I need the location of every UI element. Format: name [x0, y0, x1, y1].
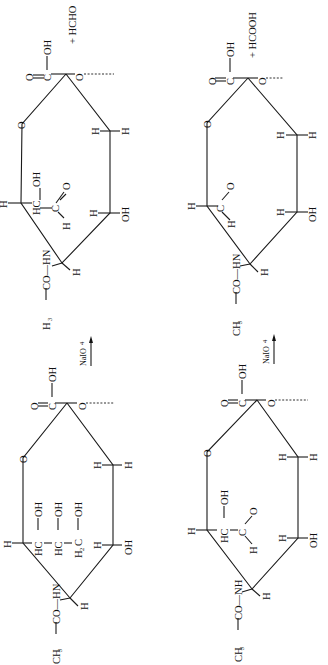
label-amide: CO—HN: [231, 253, 242, 294]
label-hc-1: HC: [33, 541, 44, 556]
label-carboxyl-o: O: [207, 77, 218, 85]
label-ring-h-c4: H: [92, 541, 103, 549]
label-h: H: [2, 540, 13, 548]
label-ring-o: O: [18, 455, 29, 463]
label-oh-3: OH: [73, 501, 84, 517]
label-ring-h-c4: H: [88, 209, 99, 217]
reagent-sub4: 4: [261, 339, 268, 343]
label-carboxyl-c: C: [225, 78, 236, 85]
label-ring-h-c4: H: [275, 208, 286, 216]
label-carboxyl-oh: OH: [225, 41, 236, 57]
label-ring-h-c3a: H: [275, 131, 286, 139]
label-amide-h3: H: [41, 322, 52, 330]
label-c: C: [50, 205, 61, 212]
label-carboxyl-o: O: [24, 73, 35, 81]
label-ring-oh-c4: OH: [123, 539, 134, 555]
label-ring-h-c3a: H: [277, 453, 288, 461]
label-aldehyde-h: H: [61, 222, 72, 230]
label-ring-h-c3a: H: [92, 461, 103, 469]
label-ring-h-c4: H: [277, 534, 288, 542]
label-ring-h-c3b: H: [120, 127, 131, 135]
label-ring-h-c3b: H: [123, 461, 134, 469]
structure-product-hcooh: O C OH O + HCOOH O H C O H H CO—HN CH 3 …: [186, 12, 318, 336]
label-amide: CO—HN: [51, 583, 62, 624]
label-aldehyde-o: O: [61, 182, 72, 190]
label-carboxyl-oh: OH: [237, 363, 248, 379]
label-oh-2: OH: [53, 501, 64, 517]
label-ring-oh-c4: OH: [120, 206, 131, 222]
byproduct-hcooh: + HCOOH: [247, 12, 258, 58]
label-ring-h-c5: H: [71, 268, 82, 276]
label-h: H: [0, 200, 9, 208]
label-glycosidic-o: O: [74, 73, 85, 81]
label-ring-o: O: [202, 449, 213, 457]
label-amide-sub3: 3: [238, 647, 245, 650]
label-carboxyl-c: C: [47, 403, 58, 410]
label-carboxyl-o: O: [29, 402, 40, 410]
label-ring-h-c3b: H: [307, 131, 318, 139]
label-c: C: [237, 529, 248, 536]
label-aldehyde-h: H: [226, 220, 237, 228]
label-ring-h-c5: H: [79, 602, 90, 610]
structure-product-hcho: O C OH O + HCHO O H HC OH C O H H CO—HN …: [0, 5, 131, 330]
reagent-sub4: 4: [78, 341, 85, 345]
label-h2c-c: C: [73, 539, 84, 546]
label-ring-h-c5: H: [261, 592, 272, 600]
label-amide-sub3: 3: [236, 321, 243, 324]
label-glycosidic-o: O: [77, 402, 88, 410]
label-hc-2: HC: [53, 541, 64, 556]
label-carboxyl-oh: OH: [47, 366, 58, 382]
label-hc: HC: [31, 200, 42, 215]
label-ring-h-c3a: H: [90, 127, 101, 135]
reagent-arrow-left: NaIO 4: [78, 336, 93, 366]
label-glycosidic-o: O: [257, 77, 268, 85]
label-h: H: [186, 527, 197, 535]
label-amide: CO—NH: [233, 579, 244, 620]
label-ring-o: O: [202, 120, 213, 128]
label-hc: HC: [219, 528, 230, 543]
periodate-oxidation-diagram: O C OH O + HCHO O H HC OH C O H H CO—HN …: [0, 0, 328, 665]
label-c: C: [215, 205, 226, 212]
label-h2c-sub2: 2: [78, 548, 85, 551]
byproduct-hcho: + HCHO: [67, 5, 78, 44]
label-oh: OH: [219, 489, 230, 505]
ring-bonds: [21, 74, 110, 263]
label-oh-1: OH: [33, 501, 44, 517]
ring-bonds: [207, 78, 297, 264]
label-carboxyl-c: C: [237, 400, 248, 407]
label-ring-oh-c4: OH: [307, 206, 318, 222]
ring-bonds: [23, 403, 113, 598]
label-aldehyde-o: O: [248, 507, 259, 515]
label-amide: CO—HN: [41, 249, 52, 290]
label-glycosidic-o: O: [266, 399, 277, 407]
label-ring-h-c3b: H: [308, 453, 319, 461]
label-amide-sub3: 3: [46, 318, 53, 321]
label-amide-sub3: 3: [56, 649, 63, 652]
label-carboxyl-o: O: [219, 399, 230, 407]
label-aldehyde-o: O: [225, 182, 236, 190]
label-ring-o: O: [16, 121, 27, 129]
label-oh: OH: [31, 171, 42, 187]
structure-reactant-triol: O C OH O O H HC OH HC OH H 2 C OH H CO—H…: [2, 366, 134, 664]
reagent-arrow-right: NaIO 4: [261, 334, 276, 364]
structure-reactant-diol: O C OH O O H HC OH C O H H CO—NH CH 3 H …: [186, 363, 319, 662]
label-aldehyde-h: H: [248, 546, 259, 554]
label-ring-oh-c4: OH: [308, 532, 319, 548]
label-h: H: [186, 202, 197, 210]
reagent-naio4: NaIO: [79, 348, 88, 366]
label-ring-h-c5: H: [259, 268, 270, 276]
label-carboxyl-oh: OH: [42, 39, 53, 55]
label-carboxyl-c: C: [42, 74, 53, 81]
reagent-naio4: NaIO: [262, 346, 271, 364]
